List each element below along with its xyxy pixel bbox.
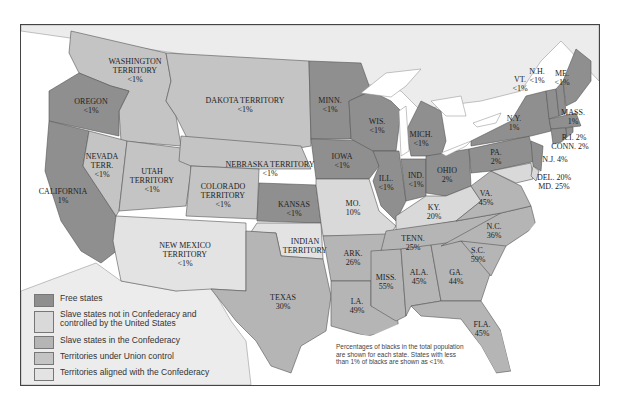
label-tennessee: TENN.25% [401, 234, 424, 252]
region-name: TENN. [401, 234, 424, 243]
region-name: N.J. 4% [542, 155, 568, 164]
lake-michigan [399, 106, 409, 156]
label-missouri: MO.10% [346, 199, 361, 217]
label-florida: FLA.45% [473, 320, 490, 338]
label-rhode-island: R.I. 2% [562, 133, 587, 142]
region-name: NEBRASKA TERRITORY [226, 160, 315, 169]
region-pct: <1% [128, 185, 176, 194]
region-name: DEL. 20% [537, 173, 571, 182]
label-connecticut: CONN. 2% [551, 142, 588, 151]
region-pct: <1% [512, 84, 527, 93]
region-name: N.Y. [507, 114, 522, 123]
label-wisconsin: WIS.<1% [369, 117, 386, 135]
region-pct: <1% [206, 105, 285, 114]
legend-swatch [34, 352, 54, 365]
region-pct: <1% [318, 105, 341, 114]
label-alabama: ALA.45% [410, 268, 428, 286]
region-pct: 45% [473, 329, 490, 338]
region-pct: 55% [376, 282, 397, 291]
region-name: GA. [449, 268, 463, 277]
region-name: ILL. [379, 174, 393, 183]
region-pct: 1% [507, 123, 522, 132]
region-pct: 44% [449, 277, 464, 286]
region-name: ME. [555, 69, 569, 78]
label-utah-territory: UTAH TERRITORY<1% [128, 167, 176, 194]
region-name: ALA. [410, 268, 428, 277]
label-maine: ME.<1% [554, 69, 569, 87]
region-name: N.H. [529, 67, 545, 76]
region-name: S.C. [471, 246, 485, 255]
legend-label: Slave states not in Confederacy and cont… [60, 310, 235, 328]
label-mississippi: MISS.55% [376, 273, 397, 291]
region-name: WIS. [369, 117, 386, 126]
label-illinois: ILL.<1% [378, 174, 393, 192]
region-name: VT. [514, 75, 526, 84]
label-massachusetts: MASS.1% [561, 108, 585, 126]
region-pct: <1% [369, 126, 386, 135]
region-name: KY. [428, 203, 441, 212]
region-name: ARK. [344, 249, 363, 258]
region-pct: <1% [378, 183, 393, 192]
region-pct: 45% [479, 198, 494, 207]
region-pct: 36% [486, 231, 501, 240]
label-delaware: DEL. 20% [537, 173, 571, 182]
label-nebraska-territory: NEBRASKA TERRITORY<1% [226, 160, 315, 178]
region-pct: 26% [344, 258, 363, 267]
region-name: NEVADA TERR. [82, 152, 122, 170]
label-louisiana: LA.49% [350, 297, 365, 315]
label-indiana: IND.<1% [408, 171, 424, 189]
label-oregon: OREGON<1% [74, 97, 107, 115]
region-pct: 2% [490, 157, 502, 166]
label-kansas: KANSAS<1% [278, 200, 310, 218]
region-name: TEXAS [270, 293, 296, 302]
region-pct: <1% [332, 161, 353, 170]
label-indian-territory: INDIAN TERRITORY [278, 237, 333, 255]
region-pct: <1% [196, 200, 251, 209]
legend-label: Slave states in the Confederacy [60, 336, 180, 345]
region-pct: <1% [529, 76, 545, 85]
label-texas: TEXAS30% [270, 293, 296, 311]
region-pct: <1% [155, 259, 215, 268]
region-name: KANSAS [278, 200, 310, 209]
region-pct: 45% [410, 277, 428, 286]
region-name: R.I. 2% [562, 133, 587, 142]
label-north-carolina: N.C.36% [486, 222, 501, 240]
label-new-york: N.Y.1% [507, 114, 522, 132]
region-name: IND. [408, 171, 424, 180]
region-pct: 30% [270, 302, 296, 311]
legend-item-slave-states-confederacy: Slave states in the Confederacy [34, 336, 235, 349]
region-name: PA. [490, 148, 502, 157]
region-name: INDIAN TERRITORY [278, 237, 333, 255]
region-pct: 2% [437, 175, 457, 184]
region-pct: <1% [226, 169, 315, 178]
region-pct: <1% [410, 139, 433, 148]
region-name: OREGON [74, 97, 107, 106]
label-south-carolina: S.C.59% [471, 246, 486, 264]
region-name: MO. [346, 199, 361, 208]
label-maryland: MD. 25% [538, 182, 570, 191]
region-name: OHIO [437, 166, 457, 175]
legend-item-territories-confederacy: Territories aligned with the Confederacy [34, 368, 235, 381]
region-name: MINN. [318, 96, 341, 105]
lake-ontario [473, 113, 501, 127]
region-name: NEW MEXICO TERRITORY [155, 241, 215, 259]
region-pct: <1% [82, 170, 122, 179]
label-colorado-territory: COLORADO TERRITORY<1% [196, 182, 251, 209]
region-name: WASHINGTON TERRITORY [105, 57, 165, 75]
label-minnesota: MINN.<1% [318, 96, 341, 114]
region-name: LA. [351, 297, 364, 306]
region-name: FLA. [473, 320, 490, 329]
region-name: VA. [480, 189, 493, 198]
label-vermont: VT.<1% [512, 75, 527, 93]
label-iowa: IOWA<1% [332, 152, 353, 170]
label-california: CALIFORNIA1% [39, 187, 87, 205]
legend-item-slave-states-union: Slave states not in Confederacy and cont… [34, 310, 235, 333]
region-pct: 25% [401, 243, 424, 252]
region-pct: 1% [39, 196, 87, 205]
region-name: COLORADO TERRITORY [196, 182, 251, 200]
region-name: MD. 25% [538, 182, 570, 191]
label-pennsylvania: PA.2% [490, 148, 502, 166]
region-name: CALIFORNIA [39, 187, 87, 196]
legend-swatch [34, 336, 54, 349]
label-dakota-territory: DAKOTA TERRITORY<1% [206, 96, 285, 114]
